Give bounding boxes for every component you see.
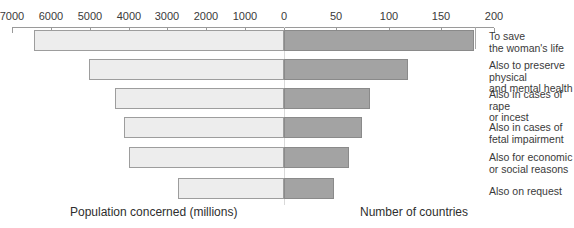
axis-tick <box>12 28 13 33</box>
bar-countries <box>284 147 349 168</box>
row-label-fetal-impairment: Also in cases of fetal impairment <box>489 122 574 145</box>
axis-tick-label-150: 150 <box>411 10 471 22</box>
countries-axis-title: Number of countries <box>360 205 468 219</box>
axis-tick-label-200: 200 <box>464 10 524 22</box>
row-leader-line <box>475 27 476 49</box>
row-label-on-request: Also on request <box>489 186 574 198</box>
row-label-economic-social: Also for economic or social reasons <box>489 152 574 175</box>
bar-population <box>124 117 284 138</box>
bar-countries <box>284 178 334 199</box>
axis-line <box>12 27 494 28</box>
bar-population <box>34 30 284 51</box>
bar-population <box>115 88 284 109</box>
axis-tick-label-zero: 0 <box>254 10 314 22</box>
bar-countries <box>284 59 408 80</box>
bar-countries <box>284 30 474 51</box>
bar-countries <box>284 117 362 138</box>
row-label-rape-incest: Also in cases of rape or incest <box>489 89 574 124</box>
bar-countries <box>284 88 370 109</box>
bar-population <box>178 178 284 199</box>
axis-tick-label-50: 50 <box>306 10 366 22</box>
bar-population <box>89 59 284 80</box>
axis-tick-label-100: 100 <box>359 10 419 22</box>
population-axis-title: Population concerned (millions) <box>70 205 237 219</box>
row-label-to-save-life: To save the woman's life <box>489 31 574 54</box>
bar-population <box>129 147 284 168</box>
